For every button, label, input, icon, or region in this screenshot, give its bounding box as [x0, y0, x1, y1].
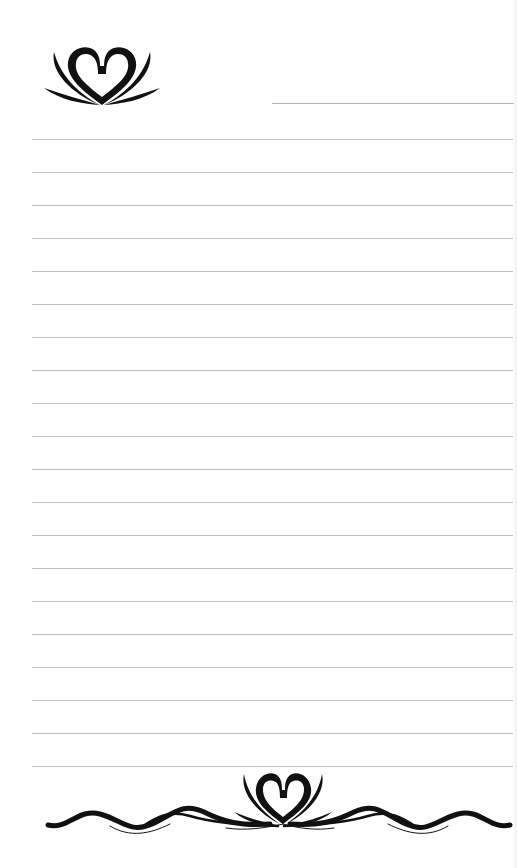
writing-line[interactable]: [32, 271, 513, 272]
writing-line[interactable]: [32, 337, 513, 338]
writing-line[interactable]: [32, 304, 513, 305]
notepaper-page: [0, 0, 517, 868]
writing-line[interactable]: [32, 700, 513, 701]
writing-line[interactable]: [32, 139, 513, 140]
writing-line[interactable]: [32, 601, 513, 602]
writing-line[interactable]: [32, 205, 513, 206]
writing-line[interactable]: [32, 436, 513, 437]
writing-line[interactable]: [32, 370, 513, 371]
writing-line[interactable]: [32, 568, 513, 569]
writing-line[interactable]: [32, 238, 513, 239]
writing-line[interactable]: [32, 469, 513, 470]
writing-line[interactable]: [32, 766, 513, 767]
writing-line[interactable]: [32, 172, 513, 173]
writing-line[interactable]: [32, 733, 513, 734]
writing-line[interactable]: [32, 634, 513, 635]
writing-line[interactable]: [32, 403, 513, 404]
writing-line[interactable]: [32, 502, 513, 503]
name-line[interactable]: [272, 103, 514, 104]
heart-lotus-icon: [42, 42, 162, 108]
page-edge-shadow: [513, 0, 517, 868]
writing-line[interactable]: [32, 535, 513, 536]
heart-lotus-swirl-border-icon: [40, 768, 517, 840]
writing-line[interactable]: [32, 667, 513, 668]
